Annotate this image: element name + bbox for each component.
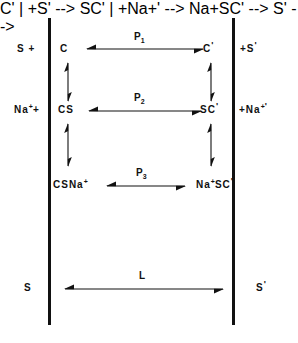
reaction-label-p3-base: P — [136, 167, 143, 178]
left-membrane-line — [48, 18, 51, 325]
label-s-bottom-inside-base: S — [256, 282, 264, 293]
label-na-inside-prime: ' — [265, 101, 268, 111]
arrow-p3-bidirectional — [104, 179, 188, 193]
label-s-inside-prime: ' — [255, 40, 258, 50]
arrow-c-cs-bidirectional — [61, 60, 75, 104]
label-s-bottom-inside: S' — [256, 283, 267, 293]
species-csna-sup: + — [84, 178, 88, 185]
arrow-scprime-nascprime-bidirectional — [204, 121, 218, 169]
arrow-cs-csna-bidirectional — [61, 121, 75, 169]
species-nasc-prime-mid: SC — [215, 179, 231, 190]
arrow-l-bidirectional — [62, 282, 226, 296]
arrow-cprime-scprime-bidirectional — [204, 60, 218, 104]
label-na-outside-tail: + — [33, 104, 40, 115]
species-c-prime-mark: ' — [211, 40, 214, 50]
label-na-outside-base: Na — [14, 104, 29, 115]
species-cs: CS — [58, 105, 74, 115]
species-sc-prime: SC' — [200, 105, 219, 115]
arrow-p1-bidirectional — [84, 42, 206, 56]
label-s-outside-text: S + — [17, 43, 35, 54]
reaction-label-l-base: L — [139, 270, 145, 281]
reaction-label-p1-base: P — [134, 31, 141, 42]
species-c-prime-base: C — [203, 43, 211, 54]
species-sc-prime-base: SC — [200, 104, 216, 115]
membrane-transport-diagram: C' | +S' --> S + C P1 C' +S' — [0, 0, 298, 343]
species-c: C — [60, 44, 68, 54]
label-s-bottom-outside: S — [24, 283, 32, 293]
reaction-label-l: L — [139, 271, 145, 281]
species-c-prime: C' — [203, 44, 214, 54]
species-csna-base: CSNa — [53, 179, 84, 190]
label-s-bottom-outside-text: S — [24, 282, 32, 293]
label-s-inside-base: S — [247, 43, 255, 54]
label-s-inside-lead: + — [240, 43, 247, 54]
species-cs-text: CS — [58, 104, 74, 115]
label-s-inside: +S' — [240, 44, 258, 54]
species-nasc-prime: Na+SC' — [196, 180, 234, 190]
right-membrane-line — [232, 18, 235, 325]
arrow-p2-bidirectional — [86, 104, 204, 118]
label-na-outside: Na++ — [14, 105, 40, 115]
species-nasc-prime-mark: ' — [231, 176, 234, 186]
species-csna: CSNa+ — [53, 180, 88, 190]
label-na-inside: +Na+' — [239, 105, 268, 115]
species-c-text: C — [60, 43, 68, 54]
label-na-inside-base: Na — [246, 104, 261, 115]
label-s-outside: S + — [17, 44, 35, 54]
species-nasc-prime-base: Na — [196, 179, 211, 190]
species-sc-prime-mark: ' — [216, 101, 219, 111]
label-s-bottom-inside-prime: ' — [264, 279, 267, 289]
label-na-inside-lead: + — [239, 104, 246, 115]
reaction-label-p2-base: P — [134, 92, 141, 103]
